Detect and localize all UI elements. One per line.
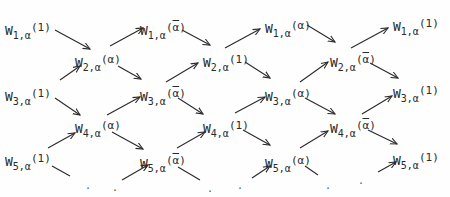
ellipsis-dot: . xyxy=(237,180,243,191)
node-subscript: 5,α xyxy=(273,163,291,174)
node-symbol: W xyxy=(140,23,148,38)
node-symbol: W xyxy=(393,19,401,34)
ellipsis-dot: . xyxy=(325,180,331,191)
node-argument: (α) xyxy=(101,53,121,66)
node-subscript: 5,α xyxy=(13,161,31,172)
node-argument: (α) xyxy=(101,119,121,132)
node-symbol: W xyxy=(140,89,148,104)
node-symbol: W xyxy=(203,55,211,70)
arrow-c4-w5-to-c5-w4 xyxy=(300,131,328,148)
arrow-c1-w2-to-c2-w1 xyxy=(110,28,143,46)
node-symbol: W xyxy=(75,121,83,136)
node-argument: (α) xyxy=(356,53,376,66)
node-c0-w3: W3,α(1) xyxy=(5,88,51,104)
node-subscript: 4,α xyxy=(338,128,356,139)
node-c3-w2: W2,α(1) xyxy=(203,54,249,70)
node-c6-w1: W1,α(1) xyxy=(393,18,439,34)
node-argument: (1) xyxy=(419,17,439,30)
node-c0-w1: W1,α(1) xyxy=(5,22,51,38)
arrow-c4-w3-to-c5-w2 xyxy=(300,62,328,82)
node-subscript: 3,α xyxy=(13,96,31,107)
node-argument: (α) xyxy=(291,87,311,100)
node-argument: (α) xyxy=(166,21,186,34)
node-subscript: 5,α xyxy=(148,163,166,174)
node-c3-w4: W4,α(1) xyxy=(203,120,249,136)
node-subscript: 1,α xyxy=(13,30,31,41)
ellipsis-dot: . xyxy=(358,175,364,186)
node-symbol: W xyxy=(203,121,211,136)
node-subscript: 1,α xyxy=(401,26,419,37)
node-subscript: 2,α xyxy=(211,62,229,73)
node-subscript: 1,α xyxy=(148,30,166,41)
node-subscript: 2,α xyxy=(338,62,356,73)
node-symbol: W xyxy=(5,154,13,169)
node-argument: (1) xyxy=(229,53,249,66)
node-symbol: W xyxy=(393,153,401,168)
arrow-c0-w1-to-c1-w2 xyxy=(55,30,90,49)
arrow-c4-w1-to-c5-w2 xyxy=(307,25,335,42)
arrow-c2-w3-to-c3-w2 xyxy=(166,63,198,82)
node-symbol: W xyxy=(5,89,13,104)
arrow-c0-w3-to-c1-w4 xyxy=(55,98,80,115)
arrow-c5-w4-to-c6-w3 xyxy=(362,96,392,114)
diagram-canvas: W1,α(1)W3,α(1)W5,α(1)W2,α(α)W4,α(α)W1,α(… xyxy=(0,0,450,197)
node-argument: (α) xyxy=(166,87,186,100)
node-symbol: W xyxy=(5,23,13,38)
node-subscript: 3,α xyxy=(148,96,166,107)
node-c2-w1: W1,α(α) xyxy=(140,22,186,38)
node-c4-w1: W1,α(α) xyxy=(265,20,311,36)
node-argument: (1) xyxy=(419,151,439,164)
ellipsis-dot: . xyxy=(85,180,91,191)
node-subscript: 2,α xyxy=(83,62,101,73)
node-symbol: W xyxy=(265,21,273,36)
node-symbol: W xyxy=(75,55,83,70)
node-symbol: W xyxy=(265,156,273,171)
node-c1-w2: W2,α(α) xyxy=(75,54,121,70)
arrow-c0-w5-to-c1-w4 xyxy=(48,133,75,148)
node-symbol: W xyxy=(330,121,338,136)
node-c5-w4: W4,α(α) xyxy=(330,120,376,136)
node-subscript: 4,α xyxy=(211,128,229,139)
node-argument: (α) xyxy=(356,119,376,132)
node-c2-w5: W5,α(α) xyxy=(140,155,186,171)
arrow-c2-w1-to-c3-w2 xyxy=(182,30,210,45)
arrow-c2-w5-to-c3-w4 xyxy=(177,132,205,148)
arrow-c5-w2-to-c6-w1 xyxy=(351,28,388,48)
node-symbol: W xyxy=(265,89,273,104)
node-c5-w2: W2,α(α) xyxy=(330,54,376,70)
arrow-layer xyxy=(0,0,450,197)
node-symbol: W xyxy=(140,156,148,171)
ellipsis-dot: . xyxy=(112,182,118,193)
node-c1-w4: W4,α(α) xyxy=(75,120,121,136)
node-c4-w3: W3,α(α) xyxy=(265,88,311,104)
node-c2-w3: W3,α(α) xyxy=(140,88,186,104)
node-subscript: 1,α xyxy=(273,28,291,39)
node-c6-w5: W5,α(1) xyxy=(393,152,439,168)
node-argument: (1) xyxy=(31,87,51,100)
node-argument: (1) xyxy=(419,84,439,97)
arrow-c0-w5-to-dots-1 xyxy=(52,166,70,176)
node-argument: (1) xyxy=(31,152,51,165)
node-subscript: 5,α xyxy=(401,160,419,171)
arrow-c1-w2-to-c2-w3 xyxy=(118,66,141,79)
node-subscript: 3,α xyxy=(273,96,291,107)
node-argument: (α) xyxy=(291,19,311,32)
node-c4-w5: W5,α(α) xyxy=(265,155,311,171)
node-argument: (α) xyxy=(166,154,186,167)
ellipsis-dot: . xyxy=(207,183,213,194)
node-argument: (1) xyxy=(31,21,51,34)
node-symbol: W xyxy=(330,55,338,70)
arrow-c3-w2-to-c4-w1 xyxy=(225,29,260,48)
node-argument: (α) xyxy=(291,154,311,167)
arrow-c1-w4-to-c2-w3 xyxy=(107,97,140,115)
node-subscript: 4,α xyxy=(83,128,101,139)
arrow-c3-w4-to-c4-w3 xyxy=(235,97,265,113)
node-symbol: W xyxy=(393,86,401,101)
node-c6-w3: W3,α(1) xyxy=(393,85,439,101)
node-subscript: 3,α xyxy=(401,93,419,104)
node-c0-w5: W5,α(1) xyxy=(5,153,51,169)
node-argument: (1) xyxy=(229,119,249,132)
